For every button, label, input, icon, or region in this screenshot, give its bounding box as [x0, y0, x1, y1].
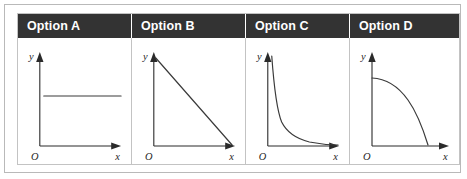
curve-option-b — [156, 58, 232, 145]
graph-cell-option-c: y O x — [246, 38, 350, 164]
y-axis-arrowhead-option-a — [36, 52, 43, 62]
header-label-option-d: Option D — [359, 19, 413, 33]
x-axis-label-option-a: x — [114, 151, 120, 162]
graph-cell-option-d: y O x — [350, 38, 459, 164]
origin-label-option-a: O — [31, 151, 39, 162]
y-axis-label-option-a: y — [28, 51, 34, 62]
curve-option-c — [272, 56, 338, 145]
graph-option-b: y O x — [132, 38, 245, 164]
y-axis-label-option-c: y — [256, 51, 262, 62]
header-cell-option-a: Option A — [18, 14, 132, 38]
header-cell-option-b: Option B — [132, 14, 246, 38]
x-axis-arrowhead-option-a — [111, 143, 121, 150]
origin-label-option-d: O — [363, 151, 371, 162]
table-header-row: Option A Option B Option C Option D — [18, 14, 459, 38]
y-axis-arrowhead-option-d — [368, 52, 375, 62]
graph-cell-option-b: y O x — [132, 38, 246, 164]
header-label-option-b: Option B — [141, 19, 195, 33]
options-comparison-table: Option A Option B Option C Option D — [17, 13, 460, 165]
x-axis-arrowhead-option-c — [329, 143, 339, 150]
y-axis-arrowhead-option-c — [264, 52, 271, 62]
y-axis-label-option-d: y — [360, 51, 366, 62]
header-label-option-c: Option C — [255, 19, 309, 33]
header-cell-option-c: Option C — [246, 14, 350, 38]
y-axis-label-option-b: y — [142, 51, 148, 62]
x-axis-arrowhead-option-d — [439, 143, 449, 150]
curve-option-d — [372, 78, 428, 145]
origin-label-option-c: O — [259, 151, 267, 162]
header-label-option-a: Option A — [27, 19, 80, 33]
origin-label-option-b: O — [145, 151, 153, 162]
graph-cell-option-a: y O x — [18, 38, 132, 164]
x-axis-label-option-c: x — [332, 151, 338, 162]
outer-frame: Option A Option B Option C Option D — [4, 4, 461, 173]
x-axis-label-option-b: x — [228, 151, 234, 162]
graph-option-d: y O x — [350, 38, 459, 164]
graph-option-c: y O x — [246, 38, 349, 164]
table-graph-row: y O x y O x — [18, 38, 459, 164]
header-cell-option-d: Option D — [350, 14, 459, 38]
graph-option-a: y O x — [18, 38, 131, 164]
y-axis-arrowhead-option-b — [150, 52, 157, 62]
x-axis-label-option-d: x — [442, 151, 448, 162]
